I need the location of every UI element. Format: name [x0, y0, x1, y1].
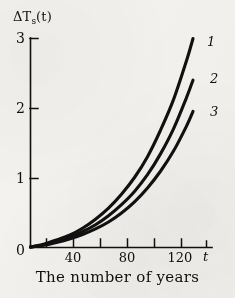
curve-label-3: 3	[210, 105, 218, 118]
y-axis-title-main: ΔT	[13, 9, 31, 24]
x-tick-label-80: 80	[114, 251, 140, 264]
curves-group	[31, 39, 194, 248]
curve-label-2: 2	[210, 72, 218, 85]
y-tick-label-1: 1	[9, 171, 25, 185]
x-axis-caption: The number of years	[0, 270, 235, 285]
figure-container: ΔTs(t) 3 2 1 0 40 80 120 t 1 2 3 The num…	[0, 0, 235, 298]
y-tick-label-3: 3	[9, 31, 25, 45]
x-tick-label-0: 0	[9, 243, 25, 257]
x-tick-label-40: 40	[60, 251, 86, 264]
curve-3-path	[31, 111, 194, 247]
curve-1-path	[31, 39, 194, 248]
curve-label-1: 1	[207, 35, 215, 48]
y-axis-title: ΔTs(t)	[13, 10, 52, 26]
curve-2-path	[31, 80, 194, 247]
x-axis-variable-label: t	[203, 250, 208, 263]
y-tick-label-2: 2	[9, 101, 25, 115]
y-axis-title-argument: (t)	[36, 9, 52, 24]
x-tick-label-120: 120	[167, 251, 193, 264]
